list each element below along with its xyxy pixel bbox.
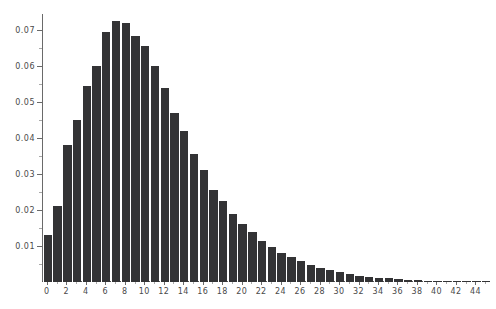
x-axis-tick-minor (115, 282, 116, 284)
bar (286, 257, 295, 282)
x-axis-tick-minor (446, 282, 447, 284)
x-axis-tick-label: 24 (275, 287, 286, 296)
bar (208, 190, 217, 282)
y-axis-tick (37, 246, 42, 247)
x-axis-tick-label: 10 (139, 287, 150, 296)
x-axis-tick-minor (368, 282, 369, 284)
x-axis-tick-minor (57, 282, 58, 284)
x-axis-tick-minor (193, 282, 194, 284)
x-axis-tick (66, 282, 67, 285)
x-axis-tick (456, 282, 457, 285)
x-axis-tick-label: 12 (158, 287, 169, 296)
x-axis-tick (417, 282, 418, 285)
x-axis-tick-minor (271, 282, 272, 284)
y-axis-tick-label: 0.07 (15, 26, 35, 35)
bar (160, 88, 169, 282)
x-axis-tick (397, 282, 398, 285)
x-axis-tick-label: 6 (103, 287, 109, 296)
x-axis-tick (281, 282, 282, 285)
x-axis-tick-minor (310, 282, 311, 284)
x-axis-tick-minor (349, 282, 350, 284)
x-axis-tick (475, 282, 476, 285)
chart-title (0, 0, 496, 6)
x-axis-tick-label: 40 (431, 287, 442, 296)
bar (345, 274, 354, 282)
bar-series (42, 14, 490, 282)
x-axis-tick (125, 282, 126, 285)
bar (237, 224, 246, 282)
x-axis-tick-minor (290, 282, 291, 284)
y-axis-tick-minor (39, 264, 42, 265)
y-axis-tick (37, 102, 42, 103)
y-axis-tick-label: 0.02 (15, 206, 35, 215)
bar (306, 265, 315, 282)
x-axis-tick-minor (96, 282, 97, 284)
x-axis-tick (242, 282, 243, 285)
x-axis-tick-label: 30 (334, 287, 345, 296)
bar (62, 145, 71, 282)
x-axis-tick (359, 282, 360, 285)
bar (179, 131, 188, 282)
y-axis-tick-minor (39, 156, 42, 157)
chart-container: 0.010.020.030.040.050.060.07 02468101214… (0, 0, 496, 309)
bar (315, 268, 324, 282)
x-axis-tick (339, 282, 340, 285)
x-axis-tick-minor (232, 282, 233, 284)
y-axis-tick-label: 0.03 (15, 170, 35, 179)
bar (199, 170, 208, 282)
x-axis-tick (320, 282, 321, 285)
x-axis-tick-label: 26 (295, 287, 306, 296)
bar (267, 247, 276, 282)
x-axis-tick-minor (485, 282, 486, 284)
bar (276, 253, 285, 282)
x-axis-tick-label: 34 (373, 287, 384, 296)
bar (247, 232, 256, 282)
bar (82, 86, 91, 282)
y-axis-tick-minor (39, 192, 42, 193)
y-axis-tick (37, 210, 42, 211)
bar (140, 46, 149, 282)
x-axis-tick (300, 282, 301, 285)
x-axis-tick-label: 0 (44, 287, 50, 296)
x-axis-tick-label: 18 (217, 287, 228, 296)
x-axis-tick-label: 32 (353, 287, 364, 296)
y-axis-tick-minor (39, 84, 42, 85)
bar (189, 154, 198, 282)
x-axis-tick-label: 8 (122, 287, 128, 296)
x-axis-tick-label: 20 (236, 287, 247, 296)
bar (111, 21, 120, 282)
y-axis-tick-label: 0.06 (15, 62, 35, 71)
x-axis-tick-minor (135, 282, 136, 284)
bar (325, 270, 334, 282)
bar (169, 113, 178, 282)
bar (150, 66, 159, 282)
x-axis-tick-minor (427, 282, 428, 284)
y-axis-tick-label: 0.05 (15, 98, 35, 107)
x-axis-tick (222, 282, 223, 285)
x-axis-tick-minor (407, 282, 408, 284)
x-axis-tick-label: 44 (470, 287, 481, 296)
x-axis-tick-label: 22 (256, 287, 267, 296)
x-axis-tick (183, 282, 184, 285)
y-axis-tick (37, 174, 42, 175)
x-axis-tick (164, 282, 165, 285)
x-axis-tick-minor (388, 282, 389, 284)
bar (228, 214, 237, 282)
x-axis-tick-label: 4 (83, 287, 89, 296)
x-axis-tick-minor (251, 282, 252, 284)
y-axis-tick-minor (39, 48, 42, 49)
x-axis-tick-label: 38 (411, 287, 422, 296)
y-axis-tick-label: 0.04 (15, 134, 35, 143)
x-axis-tick (378, 282, 379, 285)
x-axis-tick (203, 282, 204, 285)
y-axis-tick-minor (39, 120, 42, 121)
x-axis-tick-minor (76, 282, 77, 284)
bar (257, 241, 266, 282)
bar (130, 36, 139, 282)
y-axis-tick-minor (39, 228, 42, 229)
x-axis: 0246810121416182022242628303234363840424… (42, 282, 490, 307)
x-axis-tick-minor (329, 282, 330, 284)
bar (52, 206, 61, 282)
x-axis-tick (86, 282, 87, 285)
bar (43, 235, 52, 282)
